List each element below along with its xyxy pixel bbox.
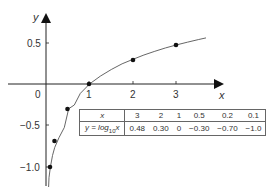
table-row-y: y = log10x 0.48 0.30 0 −0.30 −0.70 −1.0 — [80, 122, 266, 136]
y-axis-arrow-icon — [41, 13, 51, 23]
y-tick-label-neg-1.0: −1.0 — [20, 162, 40, 173]
table-cell: −0.30 — [185, 122, 213, 136]
table-cell: 3 — [125, 110, 149, 122]
y-tick-label-neg-0.5: −0.5 — [20, 120, 40, 131]
values-table: x 3 2 1 0.5 0.2 0.1 y = log10x 0.48 0.30… — [79, 109, 266, 136]
data-point — [48, 165, 53, 170]
chart-canvas: y x 0 1 2 3 0.5 −0.5 −1.0 — [0, 0, 274, 194]
x-axis-label: x — [218, 89, 225, 101]
x-tick-label-1: 1 — [86, 89, 92, 100]
table-cell: 1 — [173, 110, 185, 122]
table-cell: −0.70 — [213, 122, 241, 136]
data-point — [131, 58, 136, 63]
x-tick-label-2: 2 — [130, 89, 136, 100]
table-cell: 0.2 — [213, 110, 241, 122]
data-point — [65, 107, 70, 112]
y-tick-label-0.5: 0.5 — [27, 38, 41, 49]
origin-label: 0 — [35, 89, 41, 100]
table-cell: 0 — [173, 122, 185, 136]
data-point — [52, 139, 57, 144]
y-header-prefix: y = log — [85, 123, 109, 132]
table-header-x: x — [80, 110, 125, 122]
data-point — [87, 82, 92, 87]
table-cell: 0.30 — [149, 122, 173, 136]
table-cell: 0.48 — [125, 122, 149, 136]
table-cell: 0.5 — [185, 110, 213, 122]
table-cell: 2 — [149, 110, 173, 122]
table-row-x: x 3 2 1 0.5 0.2 0.1 — [80, 110, 266, 122]
data-point — [174, 43, 179, 48]
y-header-suffix: x — [115, 123, 119, 132]
x-axis-arrow-icon — [214, 79, 224, 89]
x-tick-label-3: 3 — [173, 89, 179, 100]
table-cell: 0.1 — [242, 110, 266, 122]
table-cell: −1.0 — [242, 122, 266, 136]
table-header-y: y = log10x — [80, 122, 125, 136]
y-axis-label: y — [32, 11, 40, 23]
